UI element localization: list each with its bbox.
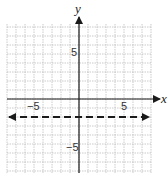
x-tick-label-neg5: −5 [27, 100, 40, 112]
y-tick-label-neg5: −5 [66, 141, 79, 153]
coordinate-plane: y x −5 5 5 −5 [0, 0, 168, 173]
y-axis-label: y [73, 1, 81, 16]
x-tick-label-5: 5 [121, 100, 127, 112]
x-axis-label: x [160, 91, 167, 106]
y-tick-label-5: 5 [71, 46, 77, 58]
